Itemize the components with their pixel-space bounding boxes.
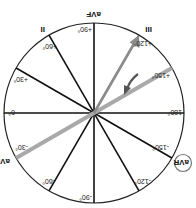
label-0: 0° <box>8 109 15 116</box>
label-180: 180° <box>167 109 182 116</box>
label-plus-90: +90° <box>77 26 92 33</box>
lead-label-iii: III <box>145 25 152 34</box>
lead-label-avl: aVL <box>0 157 10 166</box>
label-minus-150: -150° <box>152 144 169 151</box>
label-minus-60: -60° <box>42 178 55 185</box>
lead-label-ii: II <box>41 25 45 34</box>
lead-label-avr: aVR <box>173 158 189 167</box>
label-plus-120: +120° <box>133 40 152 47</box>
label-plus-150: +150° <box>151 72 170 79</box>
label-plus-60: +60° <box>42 43 57 50</box>
hexaxial-svg: 0° +30° +60° +90° +120° +150° 180° -150°… <box>0 0 196 208</box>
lead-label-avf: aVF <box>86 10 101 19</box>
label-minus-30: -30° <box>15 144 28 151</box>
hexaxial-diagram: 0° +30° +60° +90° +120° +150° 180° -150°… <box>0 0 196 208</box>
rotated-figure: 0° +30° +60° +90° +120° +150° 180° -150°… <box>0 10 192 203</box>
label-minus-120: -120° <box>134 178 151 185</box>
label-plus-30: +30° <box>13 76 28 83</box>
label-minus-90: -90° <box>79 194 92 201</box>
